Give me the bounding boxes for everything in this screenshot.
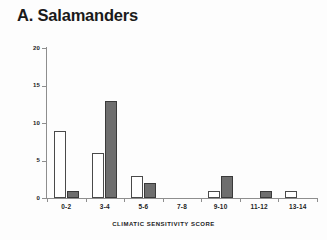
- x-tick-label: 9-10: [201, 203, 241, 210]
- x-tick-mark: [124, 198, 125, 202]
- bar-open-9-10: [208, 191, 220, 199]
- x-tick-label: 13-14: [278, 203, 318, 210]
- x-tick-label: 5-6: [123, 203, 163, 210]
- y-tick-label: 10: [18, 120, 40, 126]
- chart-figure: A. Salamanders FREQUENCY CLIMATIC SENSIT…: [0, 0, 327, 240]
- page-title: A. Salamanders: [17, 6, 138, 25]
- x-tick-label: 0-2: [46, 203, 86, 210]
- x-tick-label: 3-4: [85, 203, 125, 210]
- y-tick-label: 5: [18, 157, 40, 163]
- x-tick-mark: [163, 198, 164, 202]
- bar-filled-3-4: [105, 101, 117, 199]
- bar-filled-9-10: [221, 176, 233, 199]
- bar-filled-0-2: [67, 191, 79, 199]
- x-axis-title: CLIMATIC SENSITIVITY SCORE: [0, 221, 327, 227]
- y-tick-label: 20: [18, 45, 40, 51]
- bar-open-5-6: [131, 176, 143, 199]
- y-tick-label: 0: [18, 195, 40, 201]
- plot-area: [47, 48, 317, 198]
- y-tick-label: 15: [18, 82, 40, 88]
- bar-open-0-2: [54, 131, 66, 199]
- bar-filled-5-6: [144, 183, 156, 198]
- x-tick-mark: [317, 198, 318, 202]
- bar-open-3-4: [92, 153, 104, 198]
- x-tick-mark: [86, 198, 87, 202]
- x-tick-mark: [278, 198, 279, 202]
- x-tick-mark: [201, 198, 202, 202]
- x-tick-mark: [240, 198, 241, 202]
- bar-filled-11-12: [260, 191, 272, 199]
- x-tick-label: 11-12: [239, 203, 279, 210]
- bar-open-13-14: [285, 191, 297, 199]
- x-tick-mark: [47, 198, 48, 202]
- x-tick-label: 7-8: [162, 203, 202, 210]
